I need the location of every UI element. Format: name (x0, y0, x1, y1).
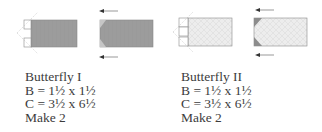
arrow-left-icon (255, 53, 274, 57)
fabric-c-rectangle (100, 20, 153, 47)
butterfly-1-step-2 (99, 9, 153, 59)
unit-name: Butterfly II (181, 70, 252, 84)
butterfly-2-step-2 (254, 8, 307, 57)
fabric-c-rectangle (254, 18, 307, 46)
butterfly-1-step-1 (17, 12, 77, 54)
arrow-left-icon (255, 8, 274, 12)
arrow-left-icon (99, 9, 118, 13)
fabric-b-size: B = 1½ x 1½ (25, 84, 96, 98)
unit-name: Butterfly I (25, 70, 96, 84)
quantity: Make 2 (25, 111, 96, 125)
fabric-c-size: C = 3½ x 6½ (25, 97, 96, 111)
fabric-b-square-bottom (179, 37, 188, 46)
fabric-b-square-top (179, 18, 188, 27)
fabric-b-size: B = 1½ x 1½ (181, 84, 252, 98)
quantity: Make 2 (181, 111, 252, 125)
fabric-b-square-top (24, 20, 31, 29)
butterfly-2-step-1 (173, 12, 232, 52)
butterfly-1-caption: Butterfly I B = 1½ x 1½ C = 3½ x 6½ Make… (25, 70, 96, 124)
fabric-c-size: C = 3½ x 6½ (181, 97, 252, 111)
butterfly-2-caption: Butterfly II B = 1½ x 1½ C = 3½ x 6½ Mak… (181, 70, 252, 124)
arrow-left-icon (99, 55, 118, 59)
fabric-b-square-middle (179, 27, 188, 36)
fabric-c-rectangle (31, 20, 77, 47)
fabric-c-rectangle (188, 18, 232, 46)
